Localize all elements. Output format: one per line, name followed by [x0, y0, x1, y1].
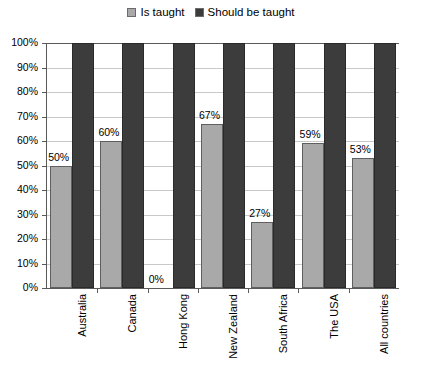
bar-should-be-taught — [122, 43, 144, 288]
bar-is-taught — [201, 124, 223, 288]
y-axis-tick-label: 40% — [17, 184, 38, 195]
bar-group: 67% — [201, 43, 245, 288]
legend-swatch-icon — [127, 8, 136, 17]
y-axis-tick-label: 100% — [11, 37, 38, 48]
y-axis-tick-label: 70% — [17, 111, 38, 122]
legend-label-should-be-taught: Should be taught — [208, 6, 295, 18]
x-axis-tick — [198, 288, 199, 293]
bar-data-label: 60% — [98, 127, 119, 138]
y-axis-tick-label: 10% — [17, 258, 38, 269]
bar-group: 27% — [251, 43, 295, 288]
legend-swatch-icon — [195, 8, 204, 17]
y-axis-tick-label: 60% — [17, 135, 38, 146]
y-axis-tick-label: 90% — [17, 62, 38, 73]
bar-data-label: 0% — [149, 274, 164, 285]
chart-legend: Is taught Should be taught — [0, 6, 422, 18]
x-axis-category-label: Hong Kong — [178, 294, 189, 349]
x-axis: AustraliaCanadaHong KongNew ZealandSouth… — [46, 294, 398, 389]
y-axis-tick-label: 0% — [23, 282, 38, 293]
bar-should-be-taught — [374, 43, 396, 288]
bar-is-taught — [352, 158, 374, 288]
x-axis-tick — [248, 288, 249, 293]
y-axis: 100%90%80%70%60%50%40%30%20%10%0% — [0, 43, 42, 288]
bar-should-be-taught — [273, 43, 295, 288]
bar-chart: Is taught Should be taught 100%90%80%70%… — [0, 0, 422, 389]
bar-is-taught — [251, 222, 273, 288]
bar-is-taught — [100, 141, 122, 288]
y-axis-tick-label: 30% — [17, 209, 38, 220]
bar-group: 0% — [151, 43, 195, 288]
legend-entry-is-taught: Is taught — [127, 6, 184, 18]
y-axis-tick-label: 20% — [17, 233, 38, 244]
x-axis-tick — [298, 288, 299, 293]
bar-data-label: 59% — [300, 129, 321, 140]
x-axis-category-label: New Zealand — [228, 294, 239, 359]
plot-area: 50%60%0%67%27%59%53% — [46, 43, 399, 289]
y-axis-tick-label: 80% — [17, 86, 38, 97]
bar-is-taught — [50, 166, 72, 289]
y-axis-tick-label: 50% — [17, 160, 38, 171]
bar-group: 50% — [50, 43, 94, 288]
legend-entry-should-be-taught: Should be taught — [195, 6, 295, 18]
bar-should-be-taught — [324, 43, 346, 288]
bar-group: 59% — [302, 43, 346, 288]
x-axis-category-label: The USA — [329, 294, 340, 339]
x-axis-tick — [97, 288, 98, 293]
bar-is-taught — [302, 143, 324, 288]
bar-group: 53% — [352, 43, 396, 288]
bar-data-label: 27% — [249, 208, 270, 219]
bar-data-label: 53% — [350, 144, 371, 155]
x-axis-category-label: All countries — [379, 294, 390, 354]
x-axis-tick — [349, 288, 350, 293]
bar-group: 60% — [100, 43, 144, 288]
x-axis-category-label: Australia — [77, 294, 88, 337]
x-axis-category-label: South Africa — [278, 294, 289, 353]
bar-data-label: 67% — [199, 110, 220, 121]
bar-data-label: 50% — [48, 152, 69, 163]
legend-label-is-taught: Is taught — [140, 6, 184, 18]
bar-should-be-taught — [223, 43, 245, 288]
x-axis-tick — [148, 288, 149, 293]
bar-should-be-taught — [173, 43, 195, 288]
x-axis-category-label: Canada — [127, 294, 138, 333]
bar-should-be-taught — [72, 43, 94, 288]
